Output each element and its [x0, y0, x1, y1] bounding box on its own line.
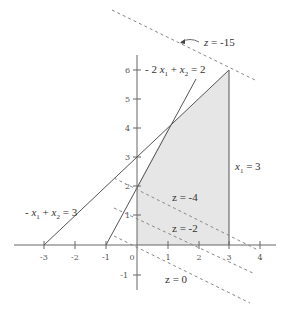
svg-text:1: 1	[125, 211, 130, 220]
y-tick-labels: -1 1 2 3 4 5 6	[120, 66, 130, 280]
label-z-neg15: z = -15	[203, 36, 235, 48]
svg-text:4: 4	[125, 124, 130, 133]
x-tick-labels: -3 -2 -1 0 1 2 3 4	[40, 253, 262, 262]
label-constraint-x1-3: x1 = 3	[234, 160, 261, 175]
svg-text:3: 3	[125, 153, 130, 162]
svg-text:6: 6	[125, 66, 130, 75]
objective-line-z-0	[114, 236, 250, 303]
svg-text:4: 4	[257, 253, 262, 262]
svg-text:-1: -1	[102, 253, 110, 262]
label-constraint-neg-2x1-plus-x2-2: - 2 x1 + x2 = 2	[145, 63, 205, 78]
svg-text:-1: -1	[120, 271, 128, 280]
svg-text:-2: -2	[71, 253, 79, 262]
svg-text:3: 3	[226, 253, 231, 262]
label-constraint-neg-x1-plus-x2-3: - x1 + x2 = 3	[25, 206, 78, 221]
feasible-region	[137, 70, 229, 245]
svg-text:1: 1	[165, 253, 170, 262]
label-z-neg4: z = -4	[172, 191, 198, 203]
svg-text:2: 2	[196, 253, 201, 262]
svg-text:-3: -3	[40, 253, 48, 262]
lp-diagram: -3 -2 -1 0 1 2 3 4 -1 1 2 3 4 5 6	[0, 0, 288, 315]
arrowhead-icon	[180, 39, 185, 44]
label-z-neg2: z = -2	[172, 222, 198, 234]
svg-text:0: 0	[129, 253, 134, 262]
svg-text:5: 5	[125, 95, 130, 104]
label-z-0: z = 0	[165, 273, 188, 285]
